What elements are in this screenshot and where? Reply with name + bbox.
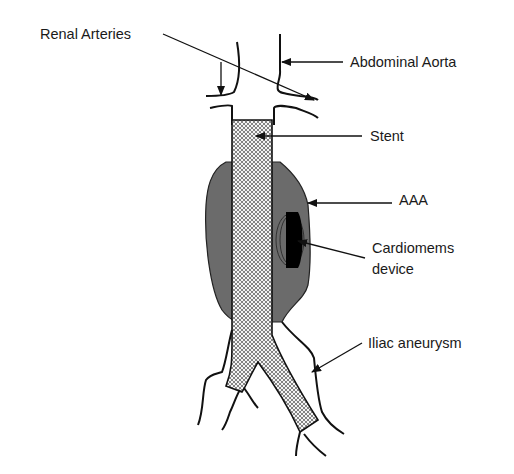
label-renal-arteries: Renal Arteries — [40, 24, 131, 44]
aorta-left-wall — [206, 42, 239, 96]
label-device: device — [372, 259, 414, 279]
diagram-canvas: Renal Arteries Abdominal Aorta Stent AAA… — [0, 0, 514, 474]
label-aaa: AAA — [399, 190, 428, 210]
label-cardiomems: Cardiomems — [372, 238, 454, 258]
iliac-left-vessel — [198, 330, 232, 425]
label-abdominal-aorta: Abdominal Aorta — [350, 52, 456, 72]
label-iliac-aneurysm: Iliac aneurysm — [368, 333, 461, 353]
aorta-right-wall — [278, 34, 318, 100]
label-stent: Stent — [370, 126, 404, 146]
